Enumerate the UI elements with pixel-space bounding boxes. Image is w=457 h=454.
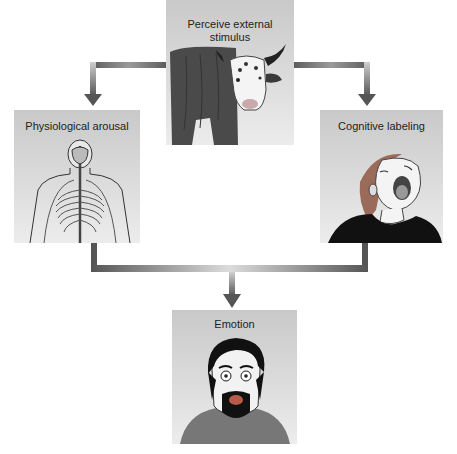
nervous-system-illustration-icon [14, 110, 140, 243]
arrow-stimulus-to-arousal [84, 62, 168, 106]
node-cognitive-labeling: Cognitive labeling [320, 110, 443, 243]
node-physiological-arousal: Physiological arousal [14, 110, 140, 243]
screaming-woman-illustration-icon [320, 110, 443, 243]
cow-illustration-icon [166, 0, 294, 145]
node-perceive-stimulus: Perceive external stimulus [166, 0, 294, 145]
node-emotion: Emotion [172, 310, 297, 444]
arrow-to-emotion [91, 243, 368, 308]
frightened-man-illustration-icon [172, 310, 297, 444]
arrow-stimulus-to-labeling [292, 62, 376, 106]
